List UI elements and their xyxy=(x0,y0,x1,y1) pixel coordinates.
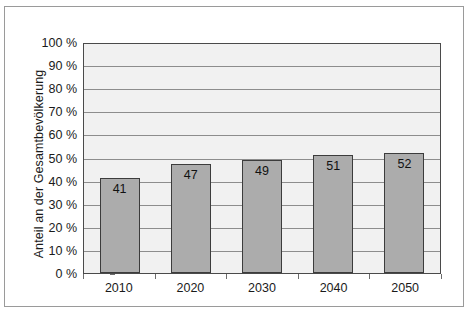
bar-value-label: 41 xyxy=(101,182,139,196)
figure-frame: Anteil an der Gesamtbevölkerung 100 %90 … xyxy=(4,6,464,307)
y-axis-tick-label: 50 % xyxy=(37,152,77,166)
x-axis-tick-label: 2010 xyxy=(83,281,155,299)
bar: 52 xyxy=(384,153,424,273)
y-axis-tick-label: 60 % xyxy=(37,128,77,142)
bar-slot: 41 xyxy=(84,44,155,273)
y-axis-tick-label: 70 % xyxy=(37,105,77,119)
x-axis-tick-mark xyxy=(155,274,156,279)
x-axis-tick-mark xyxy=(226,274,227,279)
y-axis-tick-label-group: 100 %90 %80 %70 %60 %50 %40 %30 %20 %10 … xyxy=(37,43,77,274)
bar: 49 xyxy=(242,160,282,273)
plot-area: 4147495152 xyxy=(83,43,441,274)
x-axis-tick-mark xyxy=(441,274,442,279)
bar: 51 xyxy=(313,155,353,273)
bar-value-label: 51 xyxy=(314,159,352,173)
x-axis-tick-mark xyxy=(369,274,370,279)
bar: 47 xyxy=(171,164,211,273)
x-axis-tick-mark-group xyxy=(83,274,441,280)
x-axis-tick-mark xyxy=(298,274,299,279)
y-axis-tick-label: 40 % xyxy=(37,175,77,189)
x-axis-tick-label: 2030 xyxy=(226,281,298,299)
x-axis-tick-mark xyxy=(83,274,84,279)
y-axis-tick-label: 80 % xyxy=(37,82,77,96)
bar-slot: 49 xyxy=(226,44,297,273)
bar-value-label: 49 xyxy=(243,164,281,178)
x-axis-tick-label: 2050 xyxy=(369,281,441,299)
bar-slot: 51 xyxy=(298,44,369,273)
x-axis-tick-label-group: 20102020203020402050 xyxy=(83,281,441,299)
bar-chart-figure: Anteil an der Gesamtbevölkerung 100 %90 … xyxy=(0,0,469,315)
bar-value-label: 47 xyxy=(172,168,210,182)
x-axis-tick-label: 2020 xyxy=(155,281,227,299)
x-axis-tick-label: 2040 xyxy=(298,281,370,299)
y-axis-tick-label: 90 % xyxy=(37,59,77,73)
bar-slot: 47 xyxy=(155,44,226,273)
bar: 41 xyxy=(100,178,140,273)
y-axis-tick-label: 10 % xyxy=(37,244,77,258)
bar-value-label: 52 xyxy=(385,157,423,171)
y-axis-tick-label: 20 % xyxy=(37,221,77,235)
bar-group: 4147495152 xyxy=(84,44,440,273)
bar-slot: 52 xyxy=(369,44,440,273)
y-axis-tick-label: 0 % xyxy=(37,267,77,281)
y-axis-tick-label: 100 % xyxy=(37,36,77,50)
y-axis-tick-label: 30 % xyxy=(37,198,77,212)
